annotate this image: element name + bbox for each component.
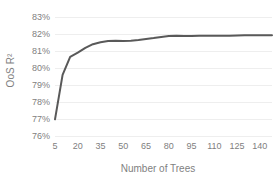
y-axis-title-label: OoS R² (6, 53, 17, 87)
y-axis-title: OoS R² (0, 0, 22, 140)
x-axis-title: Number of Trees (40, 163, 276, 174)
x-axis-tick-label: 20 (73, 140, 83, 152)
x-axis-tick-label: 125 (230, 140, 245, 152)
x-axis-title-label: Number of Trees (121, 163, 195, 174)
x-axis-tick-label: 110 (207, 140, 221, 152)
y-axis-tick-label: 77% (20, 114, 50, 124)
x-axis-tick-label: 140 (252, 140, 267, 152)
y-axis-tick-label: 82% (20, 29, 50, 39)
y-axis-tick-label: 79% (20, 80, 50, 90)
x-axis-tick-label: 80 (164, 140, 174, 152)
y-axis-tick-label: 83% (20, 12, 50, 22)
x-axis-tick-label: 5 (52, 140, 57, 152)
y-axis-tick-label: 80% (20, 63, 50, 73)
series-line-chart (55, 17, 272, 136)
y-axis-tick-labels: 76%77%78%79%80%81%82%83% (20, 12, 50, 138)
x-axis-tick-label: 50 (118, 140, 128, 152)
series-polyline (55, 35, 272, 119)
x-axis-tick-label: 65 (141, 140, 151, 152)
x-axis-tick-labels: 5203550658095110125140 (55, 140, 272, 154)
chart-container: OoS R² 76%77%78%79%80%81%82%83% 52035506… (0, 0, 279, 188)
x-axis-tick-label: 35 (96, 140, 106, 152)
plot-area (55, 17, 272, 136)
y-axis-tick-label: 76% (20, 131, 50, 141)
gridline (55, 136, 272, 137)
y-axis-tick-label: 78% (20, 97, 50, 107)
y-axis-tick-label: 81% (20, 46, 50, 56)
x-axis-tick-label: 95 (187, 140, 197, 152)
